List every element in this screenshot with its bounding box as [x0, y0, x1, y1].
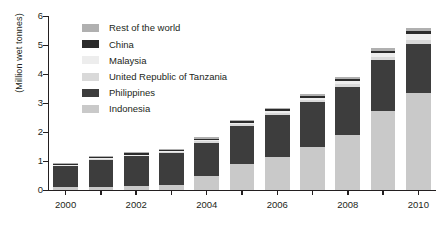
legend-item[interactable]: United Republic of Tanzania [82, 69, 282, 85]
legend-item-label: United Republic of Tanzania [109, 72, 227, 82]
legend-swatch-icon [82, 40, 99, 48]
y-tick-mark [43, 16, 49, 17]
bar-2001[interactable] [89, 156, 114, 190]
x-tick-mark [135, 190, 136, 195]
bar-2004[interactable] [194, 137, 219, 190]
y-tick-mark [43, 103, 49, 104]
bar-segment [371, 53, 396, 57]
bar-segment [124, 153, 149, 154]
legend-item-label: Philippines [109, 88, 155, 98]
y-tick-mark [43, 45, 49, 46]
bar-segment [124, 186, 149, 190]
bar-2003[interactable] [159, 149, 184, 190]
y-tick-mark [43, 190, 49, 191]
bar-segment [406, 34, 431, 40]
bar-segment [230, 121, 255, 123]
bar-segment [300, 96, 325, 98]
bar-segment [194, 139, 219, 141]
y-tick-label: 6 [38, 11, 43, 21]
bar-segment [230, 120, 255, 121]
bar-segment [406, 44, 431, 93]
bar-2009[interactable] [371, 48, 396, 190]
bar-segment [159, 151, 184, 152]
y-tick-label: 3 [38, 98, 43, 108]
bar-segment [371, 48, 396, 50]
bar-segment [89, 157, 114, 158]
x-tick-mark [241, 190, 242, 195]
bar-segment [159, 185, 184, 190]
y-tick-mark [43, 161, 49, 162]
x-tick-label: 2000 [55, 199, 76, 210]
bar-segment [159, 150, 184, 151]
legend-item-label: China [109, 40, 134, 50]
bar-2002[interactable] [124, 152, 149, 190]
x-tick-mark [418, 190, 419, 195]
bar-segment [194, 137, 219, 138]
legend-item[interactable]: Philippines [82, 85, 282, 101]
bar-segment [53, 163, 78, 164]
legend-item[interactable]: Rest of the world [82, 20, 282, 36]
y-tick-label: 1 [38, 156, 43, 166]
bar-2008[interactable] [335, 77, 360, 190]
bar-segment [265, 115, 290, 157]
bar-segment [406, 31, 431, 34]
bar-segment [194, 143, 219, 176]
y-tick-label: 4 [38, 69, 43, 79]
x-tick-mark [171, 190, 172, 195]
x-tick-mark [347, 190, 348, 195]
bar-segment [53, 164, 78, 165]
bar-segment [159, 152, 184, 153]
bar-2000[interactable] [53, 163, 78, 190]
legend-item-label: Malaysia [109, 56, 147, 66]
bar-segment [230, 123, 255, 124]
bar-segment [159, 149, 184, 150]
bar-segment [371, 57, 396, 60]
x-tick-label: 2010 [408, 199, 429, 210]
bar-segment [194, 176, 219, 190]
bar-segment [371, 111, 396, 190]
x-tick-mark [65, 190, 66, 195]
bar-segment [230, 126, 255, 163]
bar-segment [53, 165, 78, 166]
bar-segment [406, 28, 431, 31]
x-tick-label: 2002 [126, 199, 147, 210]
bar-segment [300, 147, 325, 190]
x-tick-label: 2008 [337, 199, 358, 210]
bar-2006[interactable] [265, 108, 290, 190]
bar-segment [89, 156, 114, 157]
legend-swatch-icon [82, 56, 99, 64]
legend-swatch-icon [82, 105, 99, 113]
bar-segment [335, 77, 360, 79]
legend-swatch-icon [82, 73, 99, 81]
legend-item-label: Rest of the world [109, 23, 180, 33]
bar-2010[interactable] [406, 28, 431, 190]
bar-segment [300, 100, 325, 103]
bar-segment [89, 187, 114, 190]
x-tick-mark [100, 190, 101, 195]
bar-segment [53, 187, 78, 190]
x-tick-label: 2004 [196, 199, 217, 210]
bar-segment [89, 158, 114, 159]
x-tick-label: 2006 [267, 199, 288, 210]
legend-item[interactable]: Indonesia [82, 101, 282, 117]
bar-segment [53, 166, 78, 187]
bar-segment [406, 93, 431, 190]
chart-legend: Rest of the worldChinaMalaysiaUnited Rep… [82, 20, 282, 117]
legend-item[interactable]: Malaysia [82, 52, 282, 68]
y-tick-mark [43, 74, 49, 75]
x-tick-mark [206, 190, 207, 195]
x-tick-mark [312, 190, 313, 195]
y-tick-label: 5 [38, 40, 43, 50]
y-tick-label: 2 [38, 127, 43, 137]
bar-2007[interactable] [300, 94, 325, 190]
bar-segment [335, 79, 360, 81]
chart-container: (Million wet tonnes) 0123456 20002002200… [0, 0, 436, 227]
bar-segment [230, 124, 255, 126]
bar-2005[interactable] [230, 120, 255, 190]
bar-segment [230, 164, 255, 190]
bar-segment [124, 155, 149, 156]
bar-segment [300, 98, 325, 100]
legend-swatch-icon [82, 89, 99, 97]
legend-item[interactable]: China [82, 36, 282, 52]
bar-segment [300, 94, 325, 96]
